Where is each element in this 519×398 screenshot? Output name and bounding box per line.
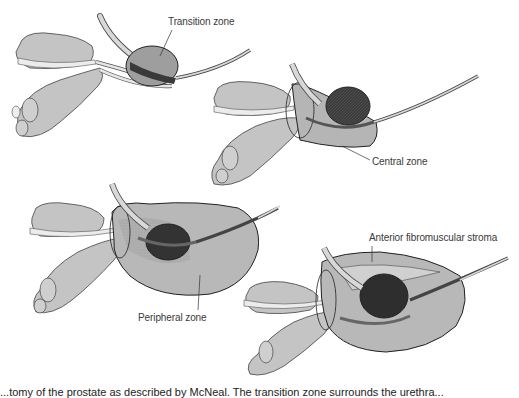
figure-caption: ...tomy of the prostate as described by … <box>0 386 444 398</box>
panel-anterior-stroma <box>244 246 508 375</box>
panel-peripheral-zone <box>30 184 280 313</box>
label-transition-zone: Transition zone <box>168 16 235 27</box>
label-central-zone: Central zone <box>372 156 428 167</box>
label-anterior-fibromuscular-stroma: Anterior fibromuscular stroma <box>369 232 497 243</box>
label-peripheral-zone: Peripheral zone <box>138 312 207 323</box>
panel-central-zone <box>212 64 478 185</box>
panel-transition-zone <box>12 16 250 137</box>
